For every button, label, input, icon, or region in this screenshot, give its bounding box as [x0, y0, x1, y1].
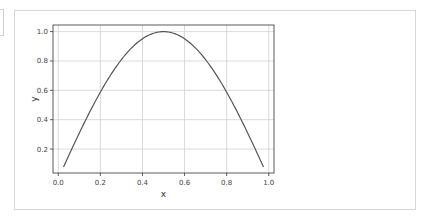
x-tick-label: 0.6	[179, 179, 191, 187]
x-tick-label: 0.8	[221, 179, 232, 187]
data-line	[64, 32, 264, 167]
y-axis-label: y	[29, 96, 39, 102]
x-tick-label: 0.2	[95, 179, 106, 187]
x-tick-label: 0.4	[137, 179, 149, 187]
y-tick-label: 0.4	[37, 116, 49, 124]
y-tick-label: 0.2	[37, 146, 48, 154]
y-tick-label: 0.8	[37, 57, 48, 65]
axes-frame	[53, 25, 274, 173]
x-tick-label: 0.0	[53, 179, 64, 187]
grid-lines	[53, 25, 274, 173]
x-axis-label: x	[161, 189, 167, 199]
y-tick-label: 1.0	[37, 28, 48, 36]
axis-ticks: 0.00.20.40.60.81.00.20.40.60.81.0	[37, 28, 274, 187]
output-area: 0.00.20.40.60.81.00.20.40.60.81.0 x y	[14, 10, 416, 210]
x-tick-label: 1.0	[263, 179, 274, 187]
cell-prompt-box	[0, 9, 4, 36]
y-tick-label: 0.6	[37, 87, 49, 95]
line-chart: 0.00.20.40.60.81.00.20.40.60.81.0 x y	[15, 11, 415, 209]
